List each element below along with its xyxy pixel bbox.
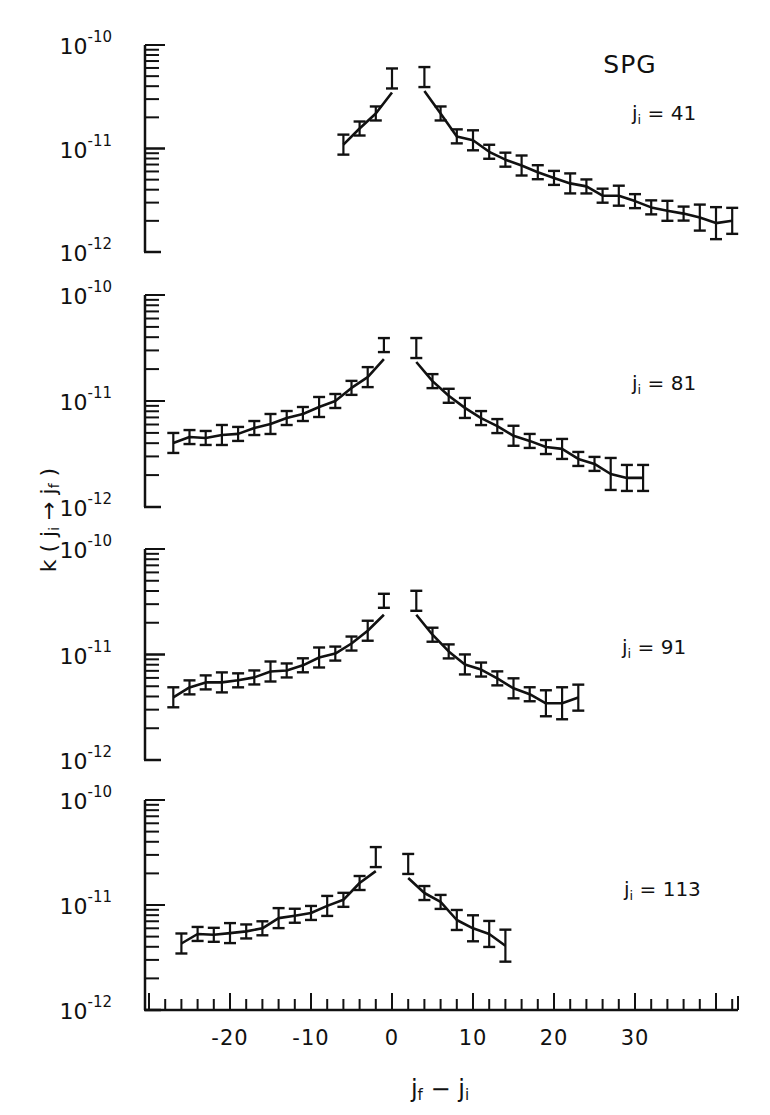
panel-label: ji = 113 bbox=[623, 877, 701, 903]
error-bar bbox=[378, 338, 390, 352]
y-tick-label: 10-11 bbox=[60, 384, 113, 415]
y-tick-label: 10-12 bbox=[60, 743, 113, 774]
error-bar bbox=[499, 930, 511, 962]
error-bar bbox=[491, 671, 503, 685]
error-bar bbox=[378, 594, 390, 608]
error-bar bbox=[410, 591, 422, 611]
fit-curve bbox=[416, 615, 578, 704]
error-bar bbox=[508, 426, 520, 446]
panel-label: ji = 91 bbox=[621, 635, 686, 661]
panel-ji-91: 10-1010-1110-12ji = 91 bbox=[60, 532, 687, 774]
fit-curve bbox=[416, 362, 643, 478]
error-bar bbox=[508, 678, 520, 698]
error-bar bbox=[467, 915, 479, 941]
y-tick-label: 10-11 bbox=[60, 638, 113, 669]
error-bar bbox=[459, 398, 471, 418]
error-bar bbox=[167, 433, 179, 453]
y-axis-title: k ( ji → jf ) bbox=[36, 468, 62, 572]
error-bar bbox=[516, 156, 528, 176]
y-tick-label: 10-10 bbox=[60, 783, 113, 814]
error-bar bbox=[572, 685, 584, 711]
chart-svg: 10-1010-1110-12ji = 4110-1010-1110-12ji … bbox=[0, 0, 770, 1115]
fit-curve bbox=[343, 93, 392, 145]
error-bar bbox=[491, 419, 503, 433]
error-bar bbox=[370, 847, 382, 867]
error-bar bbox=[475, 411, 487, 425]
error-bar bbox=[337, 135, 349, 155]
x-axis-title: jf − ji bbox=[410, 1075, 469, 1104]
error-bar bbox=[362, 367, 374, 387]
y-tick-label: 10-12 bbox=[60, 993, 113, 1024]
error-bar bbox=[402, 854, 414, 874]
error-bar bbox=[386, 68, 398, 88]
x-tick-label: 10 bbox=[459, 1026, 488, 1050]
panels-group: 10-1010-1110-12ji = 4110-1010-1110-12ji … bbox=[60, 28, 739, 1024]
error-bar bbox=[532, 165, 544, 179]
y-tick-label: 10-10 bbox=[60, 532, 113, 563]
panel-ji-113: 10-1010-1110-12ji = 113 bbox=[60, 783, 701, 1024]
x-tick-label: 20 bbox=[540, 1026, 569, 1050]
x-tick-label: -20 bbox=[211, 1026, 248, 1050]
panel-label: ji = 41 bbox=[631, 101, 696, 127]
y-tick-label: 10-10 bbox=[60, 28, 113, 59]
error-bar bbox=[418, 67, 430, 87]
y-tick-label: 10-11 bbox=[60, 132, 113, 163]
figure-title: SPG bbox=[603, 50, 656, 79]
error-bar bbox=[410, 338, 422, 358]
x-tick-label: 0 bbox=[385, 1026, 399, 1050]
x-tick-label: 30 bbox=[621, 1026, 650, 1050]
error-bar bbox=[362, 621, 374, 641]
error-bar bbox=[167, 687, 179, 707]
error-bar bbox=[483, 921, 495, 947]
error-bar bbox=[313, 397, 325, 417]
y-tick-label: 10-12 bbox=[60, 235, 113, 266]
figure: 10-1010-1110-12ji = 4110-1010-1110-12ji … bbox=[0, 0, 770, 1115]
panel-ji-81: 10-1010-1110-12ji = 81 bbox=[60, 278, 697, 521]
error-bar bbox=[483, 145, 495, 159]
x-axis: -20-100102030 bbox=[145, 993, 738, 1050]
error-bar bbox=[629, 194, 641, 208]
x-tick-label: -10 bbox=[292, 1026, 329, 1050]
error-bar bbox=[451, 910, 463, 930]
y-tick-label: 10-10 bbox=[60, 278, 113, 309]
error-bar bbox=[321, 896, 333, 916]
panel-label: ji = 81 bbox=[631, 371, 696, 397]
error-bar bbox=[524, 687, 536, 701]
error-bar bbox=[548, 171, 560, 185]
y-tick-label: 10-11 bbox=[60, 888, 113, 919]
error-bar bbox=[499, 153, 511, 167]
error-bar bbox=[175, 933, 187, 953]
y-tick-label: 10-12 bbox=[60, 490, 113, 521]
